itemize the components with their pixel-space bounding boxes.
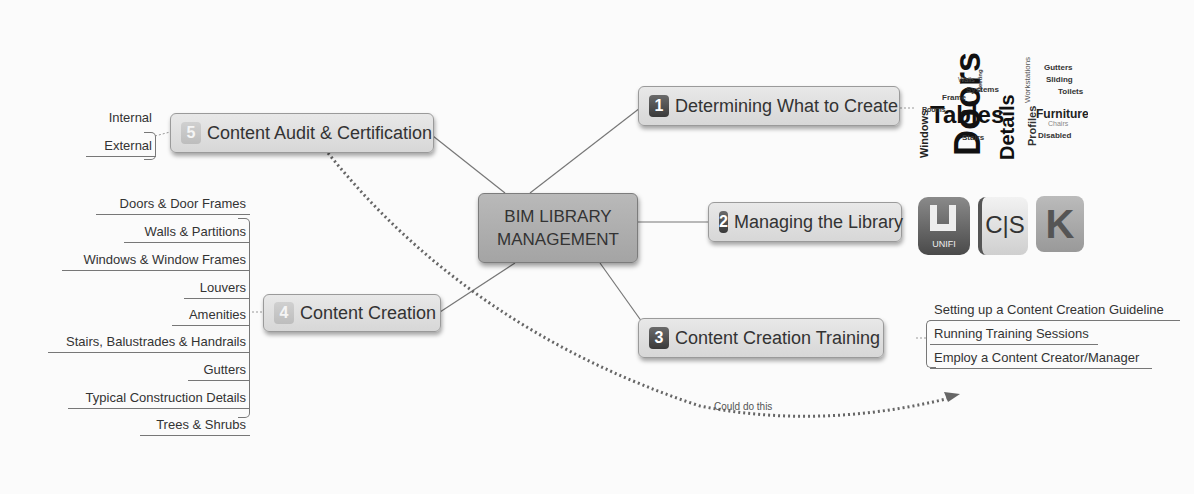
svg-text:Frame: Frame — [942, 93, 967, 102]
number-badge-2: 2 — [719, 211, 728, 233]
central-topic-line1: BIM LIBRARY — [504, 205, 611, 228]
svg-text:Rooms: Rooms — [922, 106, 946, 113]
child-walls-partitions[interactable]: Walls & Partitions — [124, 224, 250, 243]
number-badge-4: 4 — [274, 302, 294, 324]
central-topic-line2: MANAGEMENT — [497, 228, 619, 251]
child-employ-content-creator[interactable]: Employ a Content Creator/Manager — [930, 350, 1152, 369]
child-external[interactable]: External — [86, 138, 156, 157]
svg-text:Windows: Windows — [918, 110, 930, 158]
svg-text:Disabled: Disabled — [1038, 131, 1071, 140]
child-typical-construction-details[interactable]: Typical Construction Details — [68, 390, 250, 409]
svg-text:Stairs: Stairs — [962, 133, 985, 142]
svg-text:Meeting: Meeting — [977, 69, 983, 92]
cs-logo: C|S — [978, 197, 1028, 255]
child-doors-door-frames[interactable]: Doors & Door Frames — [96, 196, 250, 215]
child-amenities[interactable]: Amenities — [172, 307, 250, 326]
branch-label: Managing the Library — [734, 212, 903, 233]
branch-content-audit-certification[interactable]: 5 Content Audit & Certification — [170, 113, 434, 153]
svg-text:Details: Details — [996, 94, 1018, 160]
branch-determining-what-to-create[interactable]: 1 Determining What to Create — [638, 86, 900, 126]
number-badge-1: 1 — [649, 95, 669, 117]
number-badge-3: 3 — [649, 327, 669, 349]
child-gutters[interactable]: Gutters — [188, 362, 250, 381]
svg-text:Workstations: Workstations — [1023, 57, 1032, 103]
child-running-training-sessions[interactable]: Running Training Sessions — [930, 326, 1098, 345]
relationship-label[interactable]: Could do this — [714, 401, 772, 412]
k-logo: K — [1036, 196, 1084, 252]
branch-label: Determining What to Create — [675, 96, 898, 117]
number-badge-5: 5 — [181, 122, 201, 144]
central-topic[interactable]: BIM LIBRARY MANAGEMENT — [478, 193, 638, 263]
child-trees-shrubs[interactable]: Trees & Shrubs — [140, 417, 250, 436]
child-windows-window-frames[interactable]: Windows & Window Frames — [62, 252, 250, 271]
branch-label: Content Creation — [300, 303, 436, 324]
child-stairs-balustrades-handrails[interactable]: Stairs, Balustrades & Handrails — [48, 334, 250, 353]
svg-text:Chairs: Chairs — [1048, 120, 1069, 127]
child-internal[interactable]: Internal — [86, 110, 156, 128]
word-cloud-image: Doors Tables Details Furniture Windows P… — [918, 48, 1088, 166]
unifi-logo: UNIFI — [918, 197, 970, 255]
svg-text:Gutters: Gutters — [1044, 63, 1073, 72]
child-louvers[interactable]: Louvers — [184, 280, 250, 299]
svg-text:Sliding: Sliding — [1046, 75, 1073, 84]
svg-text:Walls: Walls — [958, 76, 975, 83]
branch-content-creation-training[interactable]: 3 Content Creation Training — [638, 318, 884, 358]
branch-label: Content Audit & Certification — [207, 123, 432, 144]
branch-content-creation[interactable]: 4 Content Creation — [263, 294, 441, 332]
child-setting-up-guideline[interactable]: Setting up a Content Creation Guideline — [930, 302, 1180, 321]
svg-text:Furniture: Furniture — [1036, 107, 1088, 121]
branch-label: Content Creation Training — [675, 328, 880, 349]
svg-text:Profiles: Profiles — [1026, 106, 1038, 146]
svg-text:Toilets: Toilets — [1058, 87, 1084, 96]
branch-managing-the-library[interactable]: 2 Managing the Library — [708, 202, 902, 242]
